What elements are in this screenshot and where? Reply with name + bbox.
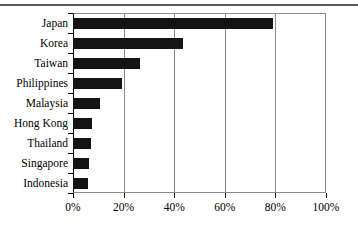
bar <box>73 118 92 129</box>
bar-row <box>73 173 326 193</box>
category-label: Thailand <box>0 133 68 153</box>
bar <box>73 98 100 109</box>
x-axis-tick <box>124 193 125 198</box>
category-label: Philippines <box>0 73 68 93</box>
top-horizontal-rule <box>0 4 358 6</box>
x-axis-tick <box>73 193 74 198</box>
category-label: Taiwan <box>0 53 68 73</box>
chart-figure: JapanKoreaTaiwanPhilippinesMalaysiaHong … <box>0 0 358 230</box>
bar <box>73 158 89 169</box>
x-axis-tick-label: 60% <box>205 201 245 213</box>
bar-row <box>73 73 326 93</box>
bar <box>73 58 140 69</box>
x-axis-tick <box>275 193 276 198</box>
category-label: Korea <box>0 33 68 53</box>
bar <box>73 178 88 189</box>
category-axis-labels: JapanKoreaTaiwanPhilippinesMalaysiaHong … <box>0 13 68 193</box>
category-label: Japan <box>0 13 68 33</box>
bar-row <box>73 13 326 33</box>
bar-row <box>73 53 326 73</box>
x-axis-tick-label: 20% <box>104 201 144 213</box>
bar-row <box>73 93 326 113</box>
category-label: Hong Kong <box>0 113 68 133</box>
x-axis-tick <box>326 193 327 198</box>
bar <box>73 38 183 49</box>
category-label: Indonesia <box>0 173 68 193</box>
x-axis-tick-label: 0% <box>53 201 93 213</box>
bar <box>73 138 91 149</box>
x-axis-tick <box>225 193 226 198</box>
category-label: Singapore <box>0 153 68 173</box>
x-axis-tick-label: 80% <box>255 201 295 213</box>
x-axis-tick-label: 40% <box>154 201 194 213</box>
bar <box>73 78 122 89</box>
bar-row <box>73 153 326 173</box>
bar <box>73 18 273 29</box>
category-label: Malaysia <box>0 93 68 113</box>
bar-row <box>73 113 326 133</box>
x-axis-tick-label: 100% <box>306 201 346 213</box>
x-axis-tick <box>174 193 175 198</box>
bars-group <box>73 13 326 193</box>
bar-row <box>73 33 326 53</box>
bar-row <box>73 133 326 153</box>
